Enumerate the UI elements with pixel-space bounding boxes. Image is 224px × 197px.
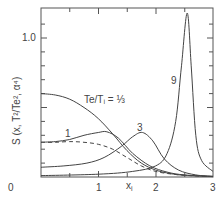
x-tick-0: 0 [8,182,14,193]
x-tick-1: 1 [96,182,102,193]
plot-frame [41,8,213,177]
ratio-annotation: Te/Tᵢ = ⅓ [84,94,125,105]
chart-svg: 0 1 2 3 1.0 xi S (x, T²/Te², α⁴) Te/Tᵢ =… [0,0,224,197]
x-tick-2: 2 [153,182,159,193]
curves [41,13,213,177]
tick-marks [41,8,213,177]
curve-label-9: 9 [171,75,177,86]
curve-label-1: 1 [65,128,71,139]
curve-label-3: 3 [137,122,143,133]
y-axis-label: S (x, T²/Te², α⁴) [11,77,22,145]
x-tick-3: 3 [210,182,216,193]
y-tick-1: 1.0 [22,32,36,43]
x-axis-label: xi [126,180,133,192]
